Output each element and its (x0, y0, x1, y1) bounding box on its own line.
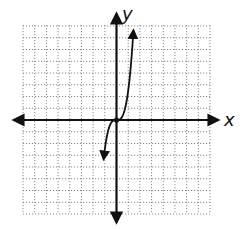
origin-point (114, 117, 119, 122)
x-axis-label: x (223, 109, 235, 130)
coordinate-plane: x y (0, 0, 245, 229)
y-axis-label: y (121, 3, 133, 24)
